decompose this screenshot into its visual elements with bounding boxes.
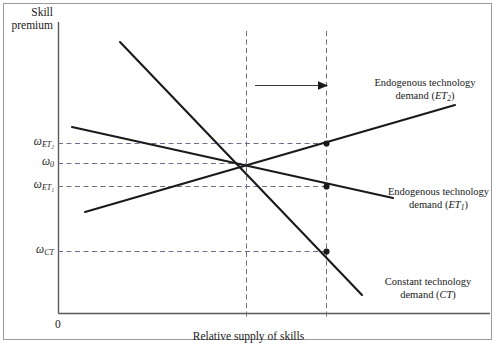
marker-omega-ET2 bbox=[323, 140, 329, 146]
omega-symbol: ω bbox=[42, 155, 50, 167]
omega-subscript: 0 bbox=[50, 160, 54, 169]
curve-constant-technology-demand bbox=[120, 42, 362, 295]
marker-omega-ET1 bbox=[323, 183, 329, 189]
omega-subscript: CT bbox=[44, 248, 54, 257]
curve-label-et2: Endogenous technology demand (ET2) bbox=[355, 76, 495, 105]
omega-symbol: ω bbox=[36, 243, 44, 255]
y-tick-omega-ET2: ωET₂ bbox=[0, 135, 54, 149]
marker-omega-CT bbox=[323, 248, 329, 254]
y-tick-omega-ET1: ωET₁ bbox=[0, 178, 54, 192]
origin-label: 0 bbox=[55, 318, 61, 330]
curve-label-ct-line2: demand (CT) bbox=[368, 288, 488, 304]
omega-symbol: ω bbox=[34, 178, 42, 190]
omega-subscript: ET₂ bbox=[42, 140, 54, 149]
curve-label-et1-line1: Endogenous technology bbox=[382, 185, 495, 198]
y-tick-omega-CT: ωCT bbox=[0, 243, 54, 257]
y-axis-title-line2: premium bbox=[0, 19, 53, 32]
omega-subscript: ET₁ bbox=[42, 183, 54, 192]
curve-label-et2-line2: demand (ET2) bbox=[355, 89, 495, 105]
omega-symbol: ω bbox=[34, 135, 42, 147]
y-axis-title-line1: Skill bbox=[0, 6, 53, 19]
curve-label-ct-line1: Constant technology bbox=[368, 275, 488, 288]
y-tick-omega-0: ω0 bbox=[0, 155, 54, 169]
curve-label-et1: Endogenous technology demand (ET1) bbox=[382, 185, 495, 214]
curve-label-et2-line1: Endogenous technology bbox=[355, 76, 495, 89]
x-axis-title: Relative supply of skills bbox=[0, 330, 497, 342]
curve-label-et1-line2: demand (ET1) bbox=[382, 198, 495, 214]
y-axis-title: Skill premium bbox=[0, 6, 53, 32]
supply-shift-arrow bbox=[255, 81, 328, 90]
curve-label-ct: Constant technology demand (CT) bbox=[368, 275, 488, 304]
figure-canvas: Skill premium ωET₂ ω0 ωET₁ ωCT 0 Relativ… bbox=[0, 0, 497, 356]
